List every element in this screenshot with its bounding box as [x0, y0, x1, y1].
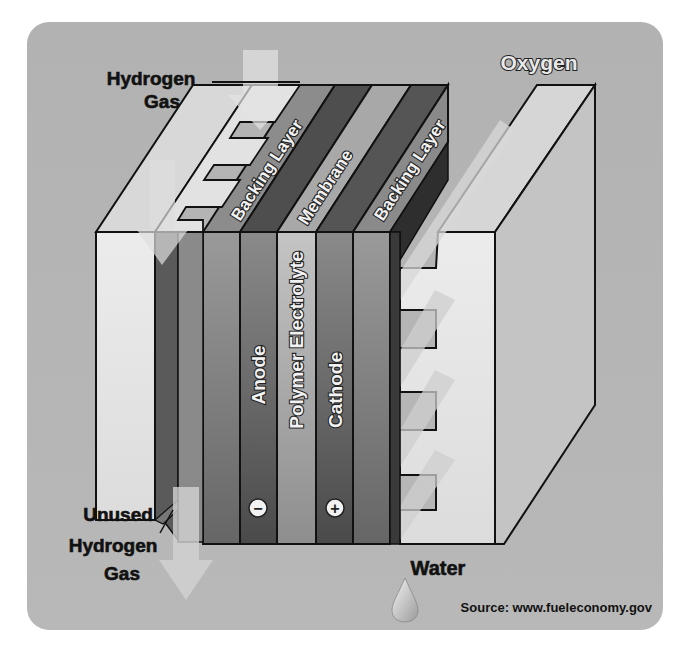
- anode-backing-layer: [203, 232, 240, 544]
- svg-text:Hydrogen: Hydrogen: [107, 68, 196, 89]
- svg-text:Unused: Unused: [83, 504, 153, 525]
- minus-icon: −: [249, 499, 267, 517]
- svg-text:Gas: Gas: [144, 91, 180, 112]
- source-credit: Source: www.fueleconomy.gov: [461, 600, 653, 615]
- svg-text:+: +: [330, 500, 339, 517]
- cathode-backing-layer: [353, 232, 390, 544]
- oxygen-label: Oxygen: [500, 51, 577, 74]
- fuel-cell-diagram: Hydrogen Gas Oxygen Backing Layer Membra…: [0, 0, 689, 658]
- svg-text:−: −: [253, 500, 262, 517]
- anode-label: Anode: [248, 345, 269, 404]
- svg-text:Hydrogen: Hydrogen: [69, 535, 158, 556]
- svg-text:Gas: Gas: [104, 563, 140, 584]
- plus-icon: +: [326, 499, 344, 517]
- water-label: Water: [411, 557, 466, 579]
- cathode-label: Cathode: [325, 352, 346, 428]
- polymer-electrolyte-label: Polymer Electrolyte: [286, 251, 307, 428]
